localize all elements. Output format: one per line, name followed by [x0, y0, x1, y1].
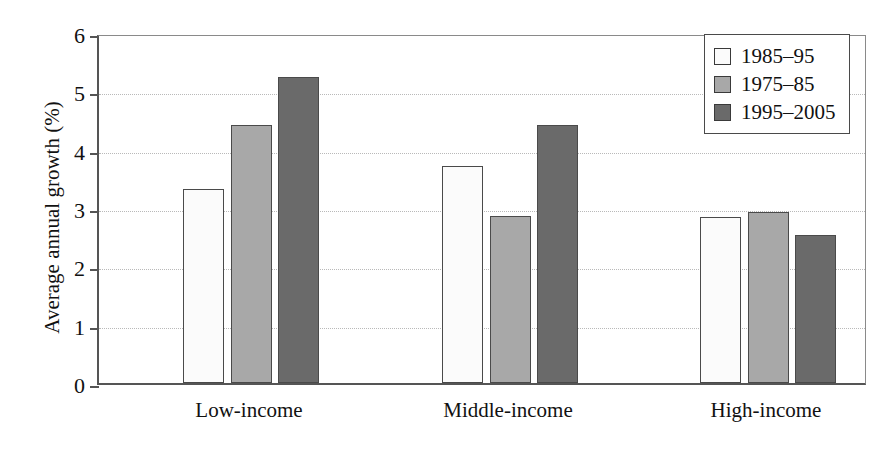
legend-swatch-1985-95: [714, 48, 731, 65]
legend-swatch-1975-85: [714, 76, 731, 93]
bar: [795, 235, 836, 383]
bar: [231, 125, 272, 383]
legend-label-1995-2005: 1995–2005: [741, 100, 836, 125]
bar: [537, 125, 578, 383]
y-axis-tick-label: 6: [74, 23, 85, 49]
legend-label-1985-95: 1985–95: [741, 44, 815, 69]
x-axis-category-label: Middle-income: [443, 398, 572, 423]
gridline: [99, 153, 865, 154]
y-axis-title: Average annual growth (%): [40, 23, 65, 413]
bar: [442, 166, 483, 383]
bar: [278, 77, 319, 383]
legend-item: 1985–95: [714, 42, 836, 70]
y-axis-tick: [90, 36, 99, 38]
bar: [490, 216, 531, 383]
legend-box: 1985–95 1975–85 1995–2005: [704, 34, 850, 134]
y-axis-tick-label: 5: [74, 81, 85, 107]
y-axis-tick: [90, 386, 99, 388]
x-axis-category-label: High-income: [711, 398, 822, 423]
y-axis-tick-label: 4: [74, 140, 85, 166]
legend-label-1975-85: 1975–85: [741, 72, 815, 97]
x-axis-category-label: Low-income: [195, 398, 302, 423]
y-axis-tick: [90, 328, 99, 330]
bar: [748, 212, 789, 384]
bar: [700, 217, 741, 383]
y-axis-tick-label: 2: [74, 256, 85, 282]
y-axis-tick: [90, 211, 99, 213]
y-axis-tick-label: 1: [74, 315, 85, 341]
y-axis-tick-label: 0: [74, 373, 85, 399]
y-axis-tick-label: 3: [74, 198, 85, 224]
legend-item: 1995–2005: [714, 98, 836, 126]
bar-chart-figure: Average annual growth (%) 0123456 Low-in…: [0, 0, 894, 451]
legend-swatch-1995-2005: [714, 104, 731, 121]
y-axis-tick: [90, 94, 99, 96]
y-axis-tick: [90, 153, 99, 155]
legend-item: 1975–85: [714, 70, 836, 98]
bar: [183, 189, 224, 383]
y-axis-tick: [90, 269, 99, 271]
